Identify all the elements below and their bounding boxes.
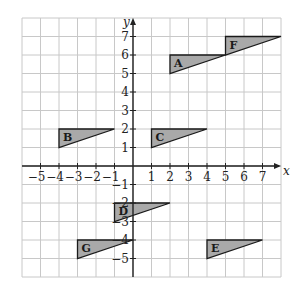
- y-tick-label: 5: [121, 67, 129, 81]
- x-tick-label: −3: [65, 170, 83, 184]
- triangle-e: E: [207, 240, 263, 259]
- triangle-label: B: [63, 131, 72, 144]
- x-tick-label: −5: [28, 170, 46, 184]
- y-tick-label: −3: [111, 215, 129, 229]
- x-tick-label: −2: [83, 170, 101, 184]
- y-axis-label: y: [122, 15, 130, 29]
- y-tick-label: −5: [111, 252, 129, 266]
- y-tick-label: −1: [111, 178, 129, 192]
- triangle-f: F: [226, 37, 282, 56]
- triangle-a: A: [170, 55, 226, 74]
- y-tick-label: 4: [121, 85, 129, 99]
- triangle-label: F: [230, 39, 238, 52]
- x-tick-label: −4: [46, 170, 64, 184]
- x-tick-label: 5: [222, 170, 230, 184]
- x-tick-label: 3: [185, 170, 193, 184]
- y-axis-arrow-icon: [130, 18, 136, 25]
- x-axis-label: x: [283, 164, 290, 178]
- triangle-b: B: [59, 129, 115, 148]
- y-tick-label: 1: [121, 141, 129, 155]
- y-tick-label: 6: [121, 48, 129, 62]
- x-tick-label: 4: [203, 170, 211, 184]
- y-tick-label: −2: [111, 196, 129, 210]
- y-tick-label: −4: [111, 233, 129, 247]
- x-tick-label: 7: [259, 170, 267, 184]
- x-tick-label: 6: [240, 170, 248, 184]
- coordinate-grid: ABCDEFGxy−5−4−3−2−11234567−5−4−3−2−11234…: [0, 0, 299, 293]
- triangle-label: A: [173, 57, 183, 70]
- triangle-c: C: [152, 129, 208, 148]
- y-tick-label: 7: [121, 30, 129, 44]
- y-tick-label: 3: [121, 104, 129, 118]
- x-axis-arrow-icon: [274, 163, 281, 169]
- triangle-label: G: [82, 242, 91, 255]
- x-tick-label: 1: [148, 170, 156, 184]
- y-tick-label: 2: [121, 122, 129, 136]
- triangle-label: C: [156, 131, 165, 144]
- triangle-label: E: [211, 242, 219, 255]
- x-tick-label: 2: [166, 170, 174, 184]
